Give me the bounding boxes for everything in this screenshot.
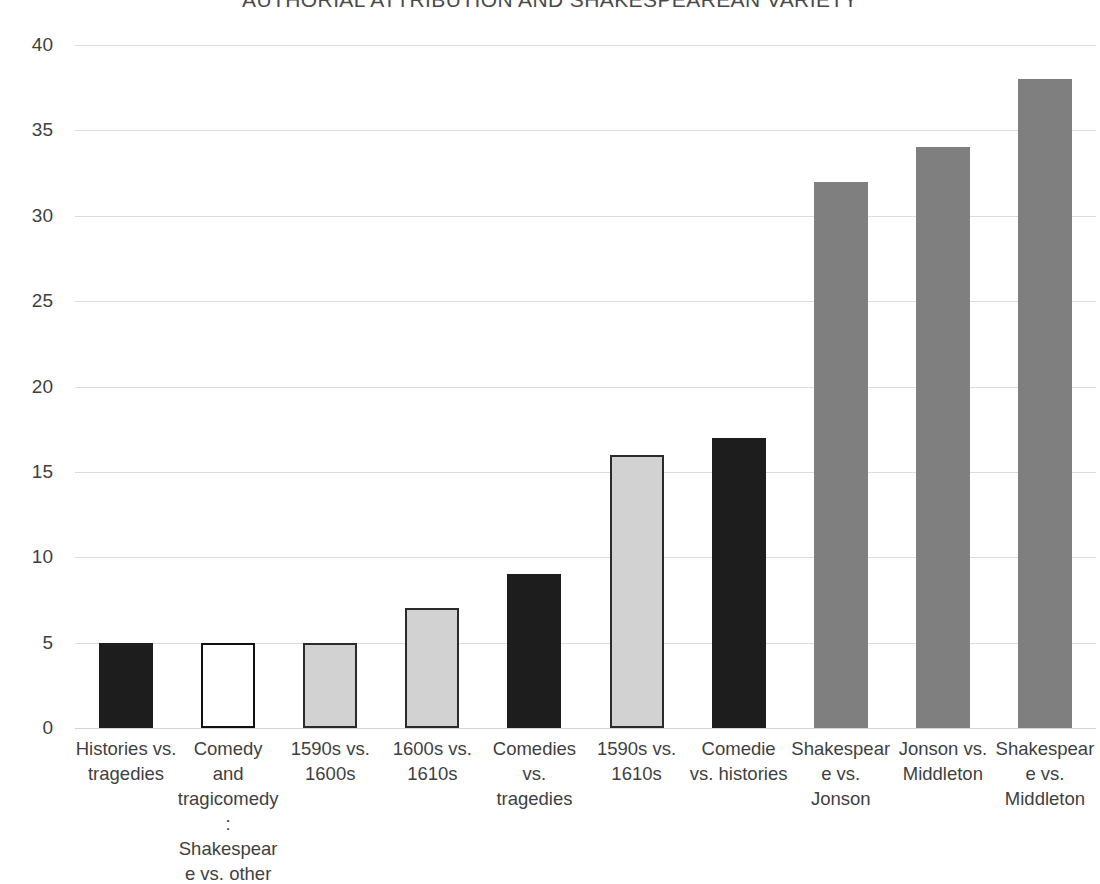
y-tick-label-20: 20 [0,376,53,398]
y-tick-label-30: 30 [0,205,53,227]
bar-slot [483,45,585,728]
bar[interactable] [99,643,153,728]
x-axis-label: Jonson vs. Middleton [892,736,994,786]
x-axis-label: Comedy and tragicomedy: Shakespeare vs. … [177,736,279,884]
bar-slot [994,45,1096,728]
bars-group [75,45,1096,728]
bar[interactable] [1018,79,1072,728]
bar[interactable] [201,643,255,728]
bar[interactable] [916,147,970,728]
y-tick-label-15: 15 [0,461,53,483]
bar-slot [177,45,279,728]
bar-slot [688,45,790,728]
y-tick-label-5: 5 [0,632,53,654]
x-axis-label: Shakespeare vs. Jonson [790,736,892,811]
y-tick-label-35: 35 [0,119,53,141]
y-tick-label-10: 10 [0,546,53,568]
bar-slot [790,45,892,728]
x-axis-label: 1590s vs. 1610s [586,736,688,786]
bar-slot [75,45,177,728]
bar[interactable] [712,438,766,728]
gridline-0 [75,728,1096,729]
bar[interactable] [303,643,357,728]
x-axis-label: 1600s vs. 1610s [381,736,483,786]
bar[interactable] [814,182,868,728]
bar[interactable] [405,608,459,728]
y-tick-label-0: 0 [0,717,53,739]
bar-slot [279,45,381,728]
x-axis-label: Histories vs. tragedies [75,736,177,786]
y-tick-label-40: 40 [0,34,53,56]
x-axis-label: Comedies vs. tragedies [483,736,585,811]
bar-slot [381,45,483,728]
bar[interactable] [610,455,664,728]
bar-slot [892,45,994,728]
x-axis-label: 1590s vs. 1600s [279,736,381,786]
chart-title: AUTHORIAL ATTRIBUTION AND SHAKESPEAREAN … [0,0,1100,13]
bar-slot [586,45,688,728]
x-axis-labels: Histories vs. tragediesComedy and tragic… [75,736,1096,856]
plot-area: 0510152025303540 [75,45,1096,728]
x-axis-label: Shakespeare vs. Middleton [994,736,1096,811]
bar[interactable] [507,574,561,728]
x-axis-label: Comedie vs. histories [688,736,790,786]
y-tick-label-25: 25 [0,290,53,312]
